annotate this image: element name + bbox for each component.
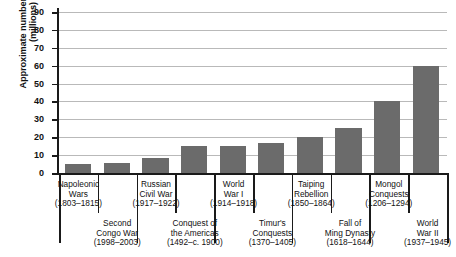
bar-slot (213, 12, 252, 173)
plot-area: 0102030405060708090 (57, 12, 445, 173)
bar-slot (98, 12, 137, 173)
x-axis-label: SecondCongo War(1998–2003) (78, 219, 156, 248)
x-axis-label-years: (1937–1945) (389, 238, 456, 248)
x-axis-label: RussianCivil War(1917–1922) (117, 180, 195, 209)
bar[interactable] (181, 146, 207, 173)
x-axis-line (57, 173, 447, 175)
bar-slot (59, 12, 98, 173)
x-axis-label: WorldWar II(1937–1945) (389, 219, 456, 248)
y-axis-title-line-1: Approximate number of deaths (17, 0, 28, 89)
x-axis-label-years: (1917–1922) (117, 199, 195, 209)
y-axis-tick-label: 90 (34, 7, 44, 17)
bar-slot (252, 12, 291, 173)
x-axis-label-years: (1370–1405) (234, 238, 312, 248)
y-axis-tick-label: 10 (34, 150, 44, 160)
bar[interactable] (297, 137, 323, 173)
x-axis-label-years: (1803–1815) (40, 199, 118, 209)
bar[interactable] (104, 163, 130, 173)
y-axis-tick (52, 66, 58, 68)
bar-series (59, 12, 445, 173)
y-axis-tick-label: 50 (34, 79, 44, 89)
y-axis-tick-label: 80 (34, 25, 44, 35)
bar[interactable] (258, 143, 284, 173)
bar-slot (406, 12, 445, 173)
x-axis-label-years: (1914–1918) (195, 199, 273, 209)
bar-slot (291, 12, 330, 173)
y-axis-tick-label: 30 (34, 114, 44, 124)
y-axis-tick (52, 155, 58, 157)
x-axis-label-years: (1206–1294) (350, 199, 428, 209)
bar-slot (368, 12, 407, 173)
x-axis-label: Conquest ofthe Americas(1492–c. 1900) (156, 219, 234, 248)
bar[interactable] (413, 66, 439, 173)
y-axis-tick (52, 173, 58, 175)
x-axis-label: WorldWar I(1914–1918) (195, 180, 273, 209)
y-axis-tick (52, 12, 58, 14)
y-axis-tick (52, 84, 58, 86)
y-axis-tick (52, 101, 58, 103)
y-axis-tick (52, 48, 58, 50)
y-axis-tick-label: 40 (34, 96, 44, 106)
x-axis-label-years: (1618–1644) (311, 238, 389, 248)
x-axis-label: Fall ofMing Dynasty(1618–1644) (311, 219, 389, 248)
x-axis-label: TaipingRebellion(1850–1864) (272, 180, 350, 209)
x-axis-label-years: (1998–2003) (78, 238, 156, 248)
x-axis-label-years: (1850–1864) (272, 199, 350, 209)
x-axis-label: Timur'sConquests(1370–1405) (234, 219, 312, 248)
x-axis-label: NapoleonicWars(1803–1815) (40, 180, 118, 209)
y-axis-tick (52, 119, 58, 121)
y-axis-tick-label: 0 (39, 168, 44, 178)
bar[interactable] (335, 128, 361, 173)
y-axis-tick-label: 60 (34, 61, 44, 71)
bar[interactable] (142, 158, 168, 173)
y-axis-tick (52, 30, 58, 32)
bar-slot (136, 12, 175, 173)
bar-slot (175, 12, 214, 173)
y-axis-tick (52, 137, 58, 139)
x-axis-label-years: (1492–c. 1900) (156, 238, 234, 248)
bar[interactable] (65, 164, 91, 173)
bar[interactable] (374, 101, 400, 173)
y-axis-tick-label: 20 (34, 132, 44, 142)
x-axis-label: MongolConquests(1206–1294) (350, 180, 428, 209)
bar[interactable] (220, 146, 246, 173)
bar-slot (329, 12, 368, 173)
y-axis-tick-label: 70 (34, 43, 44, 53)
